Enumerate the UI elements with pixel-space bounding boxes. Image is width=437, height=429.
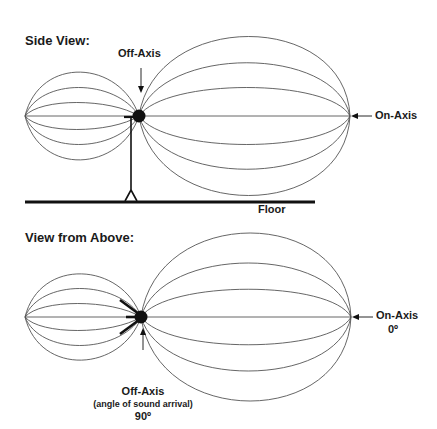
off-axis-arrow-icon: [138, 68, 144, 93]
side-off-axis-label: Off-Axis: [118, 47, 161, 59]
on-axis-arrow-icon: [351, 113, 372, 119]
on-axis-arrow-top-icon: [352, 314, 373, 320]
top-off-axis-label: Off-Axis: [93, 385, 193, 397]
top-on-axis-label: On-Axis: [376, 309, 418, 321]
top-on-axis-angle: 0º: [388, 323, 398, 335]
floor-label: Floor: [258, 203, 286, 215]
off-axis-arrow-up-icon: [140, 328, 146, 350]
top-off-axis-note: (angle of sound arrival): [83, 399, 203, 409]
side-on-axis-label: On-Axis: [375, 109, 417, 121]
side-view-pattern: [25, 37, 350, 196]
top-off-axis-angle: 90º: [113, 410, 173, 422]
top-view-title: View from Above:: [25, 230, 134, 245]
top-view-pattern: [25, 233, 351, 401]
microphone-icon: [133, 110, 146, 123]
side-view-title: Side View:: [25, 33, 90, 48]
polar-pattern-diagram: [0, 0, 437, 429]
